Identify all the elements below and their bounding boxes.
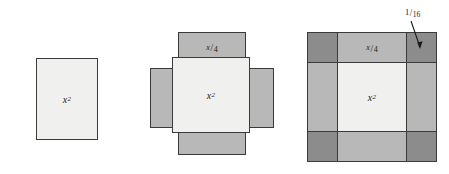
- left-rectangle-panel3: [307, 62, 338, 132]
- sixteenth-denominator: 16: [413, 10, 421, 19]
- corner-square-bottom-right-panel3: [406, 131, 437, 162]
- top-rectangle-panel3: [337, 32, 407, 63]
- center-square-panel1: [36, 58, 98, 140]
- right-rectangle-panel3: [406, 62, 437, 132]
- center-square-panel3: [337, 62, 407, 132]
- center-square-panel2: [172, 57, 250, 133]
- diagram-canvas: x2 x/4 x2: [0, 0, 449, 174]
- corner-square-top-right-panel3: [406, 32, 437, 63]
- sixteenth-numerator: 1: [405, 7, 409, 17]
- corner-square-top-left-panel3: [307, 32, 338, 63]
- sixteenth-callout-label: 1/16: [405, 7, 420, 17]
- corner-square-bottom-left-panel3: [307, 131, 338, 162]
- bottom-rectangle-panel3: [337, 131, 407, 162]
- sixteenth-slash: /: [410, 6, 412, 18]
